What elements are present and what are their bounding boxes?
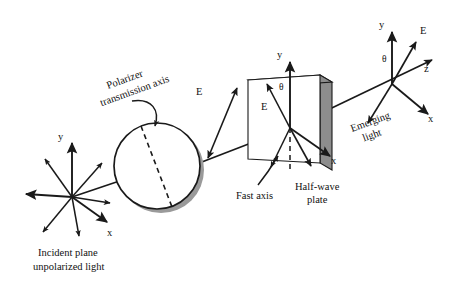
incident-x-label: x [107,227,113,238]
halfwave-caption-line-1: Half-wave [295,181,340,192]
emerging-frame-axes: y z x E θ [368,19,434,124]
incident-ray-up-left [45,159,72,197]
e-field-double-arrow [208,88,237,158]
incident-y-label: y [58,131,64,142]
half-wave-plate-caption: Half-wave plate [295,181,340,205]
emerging-x-axis-arrow [392,84,428,114]
field-after-polarizer: E [196,86,237,158]
polarizer-disk-icon [114,123,204,213]
plate-y-label: y [277,49,283,60]
incident-x-axis-arrow [72,197,107,222]
incident-caption-line-2: unpolarized light [33,261,105,272]
optics-diagram-figure: y x Incident plane unpolarized light [0,0,450,288]
plate-theta-label: θ [279,82,284,92]
halfwave-caption-line-2: plate [307,194,328,205]
incident-ray-down [72,197,79,236]
e-field-label: E [196,86,202,97]
plate-front-face [248,75,320,163]
incident-ray-down-left [43,197,72,232]
emerging-x-label: x [428,113,434,124]
emerging-theta-label: θ [382,54,387,64]
diagram-canvas: y x Incident plane unpolarized light [0,0,450,288]
emerging-z-label: z [424,63,429,74]
plate-e-label: E [261,101,267,112]
fast-axis-caption: Fast axis [236,190,273,201]
incident-ray-left [26,194,72,197]
incident-light-caption: Incident plane unpolarized light [33,247,105,272]
plate-x-label: x [331,155,337,166]
curved-pointer-arrow-icon-polarizer [132,101,156,126]
emerging-light-caption: Emerging light [349,109,397,146]
incident-caption-line-1: Incident plane [38,247,98,258]
emerging-e-label: E [420,25,426,36]
emerging-y-label: y [379,19,385,30]
polarizer-circle [114,123,200,209]
emerging-e-arrow [392,42,416,84]
unpolarized-light-star-icon: y x [26,131,113,238]
